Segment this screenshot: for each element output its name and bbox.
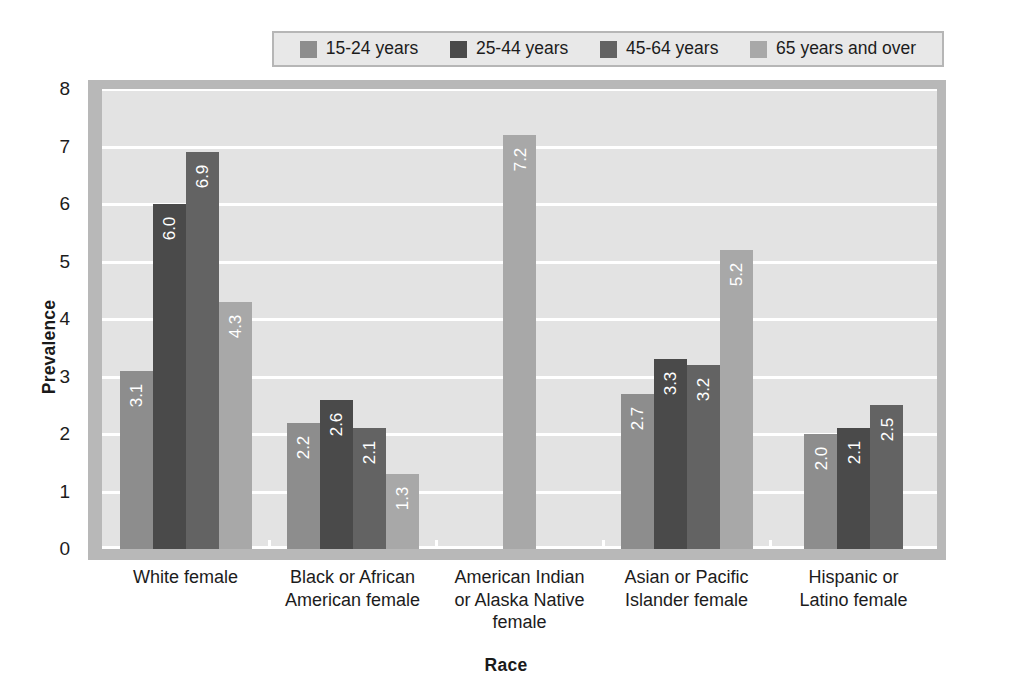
x-tick-label-line: Islander female — [603, 589, 770, 612]
x-axis-tick-labels: White femaleBlack or AfricanAmerican fem… — [88, 566, 946, 646]
bar[interactable]: 2.0 — [804, 434, 837, 549]
x-tick-label-line: Black or African — [269, 566, 436, 589]
bar[interactable]: 2.7 — [621, 394, 654, 549]
y-tick-label: 7 — [59, 136, 70, 158]
bar[interactable]: 2.1 — [353, 428, 386, 549]
x-tick-label: Black or AfricanAmerican female — [269, 566, 436, 611]
y-tick-label: 1 — [59, 481, 70, 503]
bar-value-label: 6.9 — [194, 165, 211, 189]
bar[interactable]: 2.5 — [870, 405, 903, 549]
bar-group: 7.2 — [436, 89, 603, 549]
x-tick-label-line: or Alaska Native — [436, 589, 603, 612]
legend-swatch-icon — [600, 41, 617, 58]
x-tick-label-line: female — [436, 611, 603, 634]
bar-value-label: 2.7 — [629, 406, 646, 430]
bar[interactable]: 2.2 — [287, 423, 320, 550]
bar[interactable]: 6.0 — [153, 204, 186, 549]
x-axis-title: Race — [0, 655, 1012, 676]
x-tick-label-line: American female — [269, 589, 436, 612]
legend-item-label: 25-44 years — [476, 40, 568, 58]
bar[interactable]: 3.2 — [687, 365, 720, 549]
legend-item[interactable]: 45-64 years — [600, 40, 718, 58]
bar[interactable]: 4.3 — [219, 302, 252, 549]
bar-value-label: 3.3 — [662, 372, 679, 396]
bar[interactable]: 6.9 — [186, 152, 219, 549]
legend-item[interactable]: 15-24 years — [300, 40, 418, 58]
legend-swatch-icon — [750, 41, 767, 58]
y-tick-label: 5 — [59, 251, 70, 273]
bar-value-label: 4.3 — [227, 314, 244, 338]
bar-value-label: 2.1 — [361, 441, 378, 465]
x-tick-label: Hispanic orLatino female — [770, 566, 937, 611]
legend-swatch-icon — [450, 41, 467, 58]
bar-value-label: 2.6 — [328, 412, 345, 436]
bar[interactable]: 7.2 — [503, 135, 536, 549]
x-tick-label-line: Latino female — [770, 589, 937, 612]
x-tick-label: White female — [102, 566, 269, 589]
bar[interactable]: 2.1 — [837, 428, 870, 549]
legend-swatch-icon — [300, 41, 317, 58]
plot-area: 3.16.06.94.32.22.62.11.37.22.73.33.25.22… — [102, 89, 937, 549]
bar-value-label: 7.2 — [511, 148, 528, 172]
bar-value-label: 1.3 — [394, 487, 411, 511]
x-tick-label: Asian or PacificIslander female — [603, 566, 770, 611]
legend-item-label: 65 years and over — [776, 40, 916, 58]
plot-frame: 3.16.06.94.32.22.62.11.37.22.73.33.25.22… — [88, 80, 946, 560]
bar[interactable]: 5.2 — [720, 250, 753, 549]
legend-item-label: 45-64 years — [626, 40, 718, 58]
bar-value-label: 5.2 — [728, 263, 745, 287]
x-tick-label-line: White female — [102, 566, 269, 589]
bar-value-label: 6.0 — [161, 217, 178, 241]
bar-value-label: 2.2 — [295, 435, 312, 459]
bar-value-label: 3.1 — [128, 383, 145, 407]
bar[interactable]: 3.1 — [120, 371, 153, 549]
bar-group: 2.73.33.25.2 — [603, 89, 770, 549]
legend-item[interactable]: 65 years and over — [750, 40, 916, 58]
chart-legend: 15-24 years25-44 years45-64 years65 year… — [272, 31, 944, 67]
y-tick-label: 8 — [59, 78, 70, 100]
bar-group: 2.02.12.5 — [770, 89, 937, 549]
bar-group: 3.16.06.94.3 — [102, 89, 269, 549]
y-tick-label: 6 — [59, 193, 70, 215]
bar[interactable]: 1.3 — [386, 474, 419, 549]
x-tick-label-line: American Indian — [436, 566, 603, 589]
legend-item[interactable]: 25-44 years — [450, 40, 568, 58]
y-tick-label: 3 — [59, 366, 70, 388]
x-tick-label-line: Asian or Pacific — [603, 566, 770, 589]
bar[interactable]: 3.3 — [654, 359, 687, 549]
x-tick-label: American Indianor Alaska Nativefemale — [436, 566, 603, 634]
y-tick-label: 2 — [59, 423, 70, 445]
legend-item-label: 15-24 years — [326, 40, 418, 58]
bar-value-label: 2.1 — [845, 441, 862, 465]
bar[interactable]: 2.6 — [320, 400, 353, 550]
x-tick-label-line: Hispanic or — [770, 566, 937, 589]
y-tick-label: 0 — [59, 538, 70, 560]
bar-value-label: 2.5 — [878, 418, 895, 442]
y-axis-tick-labels: 012345678 — [0, 80, 80, 560]
bar-value-label: 2.0 — [812, 447, 829, 471]
bar-value-label: 3.2 — [695, 378, 712, 402]
y-tick-label: 4 — [59, 308, 70, 330]
bar-group: 2.22.62.11.3 — [269, 89, 436, 549]
